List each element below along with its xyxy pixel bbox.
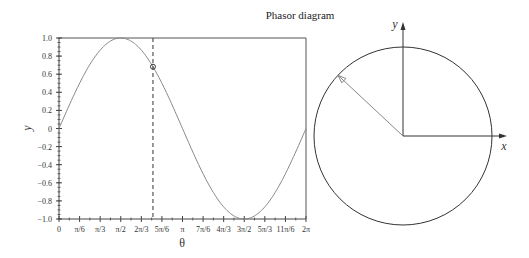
sine-plot: 1.00.80.60.40.20−0.2−0.4−0.6−0.8−1.0 0π/… [20,34,310,250]
y-tick-label: −0.6 [37,179,52,188]
y-tick-label: 0 [48,125,52,134]
x-tick-label: 4π/3 [217,225,231,234]
figure: Phasor diagram 1.00.80.60.40.20−0.2−0.4−… [0,0,529,258]
y-axis-label: y [20,125,34,132]
sine-curve [59,38,306,219]
y-arrow-icon [401,22,406,30]
x-arrow-icon [499,134,507,139]
chart-title: Phasor diagram [266,9,335,21]
y-tick-label: −0.4 [37,161,52,170]
x-tick-label: π/6 [74,225,84,234]
phasor-x-label: x [500,139,507,153]
x-tick-label: π/2 [116,225,126,234]
x-tick-label: 5π/6 [155,225,169,234]
y-tick-label: −0.8 [37,197,52,206]
y-tick-label: 0.4 [42,88,52,97]
y-tick-label: 0.6 [42,70,52,79]
x-tick-label: 3π/2 [237,225,251,234]
y-tick-label: 1.0 [42,34,52,43]
x-tick-label: 7π/6 [196,225,210,234]
x-tick-label: 2π [302,225,310,234]
phasor-diagram: y x [314,17,507,225]
x-tick-label: π [180,225,184,234]
x-tick-label: 2π/3 [134,225,148,234]
phasor-y-label: y [391,17,398,31]
y-tick-label: −1.0 [37,215,52,224]
x-tick-label: 5π/3 [258,225,272,234]
x-axis-label: θ [179,236,185,250]
x-tick-label: 0 [57,225,61,234]
phasor-vector [338,75,403,136]
y-tick-label: 0.8 [42,52,52,61]
x-tick-label: 11π/6 [276,225,294,234]
y-tick-label: −0.2 [37,143,52,152]
x-tick-label: π/3 [95,225,105,234]
y-axis-ticks: 1.00.80.60.40.20−0.2−0.4−0.6−0.8−1.0 [37,34,62,224]
y-tick-label: 0.2 [42,106,52,115]
